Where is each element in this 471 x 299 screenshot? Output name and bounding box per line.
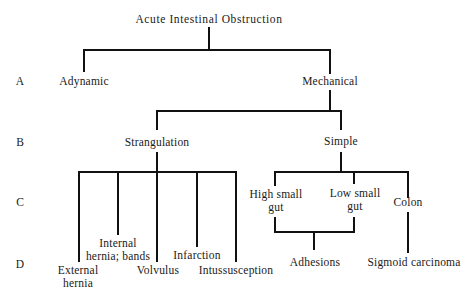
node-adhesions: Adhesions xyxy=(290,256,340,269)
connector-line xyxy=(156,152,158,173)
node-sigmoid-carcinoma: Sigmoid carcinoma xyxy=(367,256,460,269)
connector-line xyxy=(340,152,342,173)
connector-line xyxy=(329,49,331,74)
connector-line xyxy=(156,110,158,130)
connector-line xyxy=(329,90,331,112)
node-high-small-gut: High small gut xyxy=(250,188,303,213)
connector-line xyxy=(353,171,355,184)
row-label-b: B xyxy=(16,136,24,148)
node-mechanical: Mechanical xyxy=(302,75,358,88)
connector-line xyxy=(83,49,331,51)
node-low-small-gut: Low small gut xyxy=(330,187,381,212)
connector-line xyxy=(313,231,315,250)
node-colon: Colon xyxy=(393,196,422,209)
connector-line xyxy=(196,171,198,247)
row-label-c: C xyxy=(16,196,24,208)
obstruction-tree-diagram: A B C D Acute Intestinal Obstruction Ady… xyxy=(0,0,471,299)
row-label-d: D xyxy=(16,258,24,270)
connector-line xyxy=(274,171,409,173)
connector-line xyxy=(407,212,409,253)
connector-line xyxy=(117,171,119,235)
row-label-a: A xyxy=(16,75,24,87)
connector-line xyxy=(156,171,158,262)
node-volvulus: Volvulus xyxy=(137,264,179,277)
connector-line xyxy=(274,171,276,186)
node-adynamic: Adynamic xyxy=(59,75,109,88)
node-external-hernia: External hernia xyxy=(58,264,99,289)
connector-line xyxy=(407,171,409,198)
node-intussusception: Intussusception xyxy=(199,264,274,277)
node-simple: Simple xyxy=(324,135,358,148)
connector-line xyxy=(340,110,342,130)
connector-line xyxy=(208,27,210,51)
connector-line xyxy=(235,171,237,262)
connector-line xyxy=(156,110,342,112)
diagram-title: Acute Intestinal Obstruction xyxy=(135,13,282,26)
connector-line xyxy=(83,49,85,72)
node-infarction: Infarction xyxy=(173,249,220,262)
connector-line xyxy=(78,171,80,262)
node-strangulation: Strangulation xyxy=(125,136,190,149)
node-internal-hernia: Internal hernia; bands xyxy=(86,237,150,262)
